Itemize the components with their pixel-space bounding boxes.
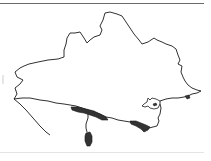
bottom-border-line	[0, 152, 204, 153]
shaded-area-portland	[85, 132, 92, 146]
portland-causeway	[86, 112, 88, 132]
county-outline	[14, 12, 201, 129]
coast-line-west	[14, 99, 50, 135]
county-map	[0, 0, 211, 161]
shaded-area-east-point	[185, 95, 190, 99]
